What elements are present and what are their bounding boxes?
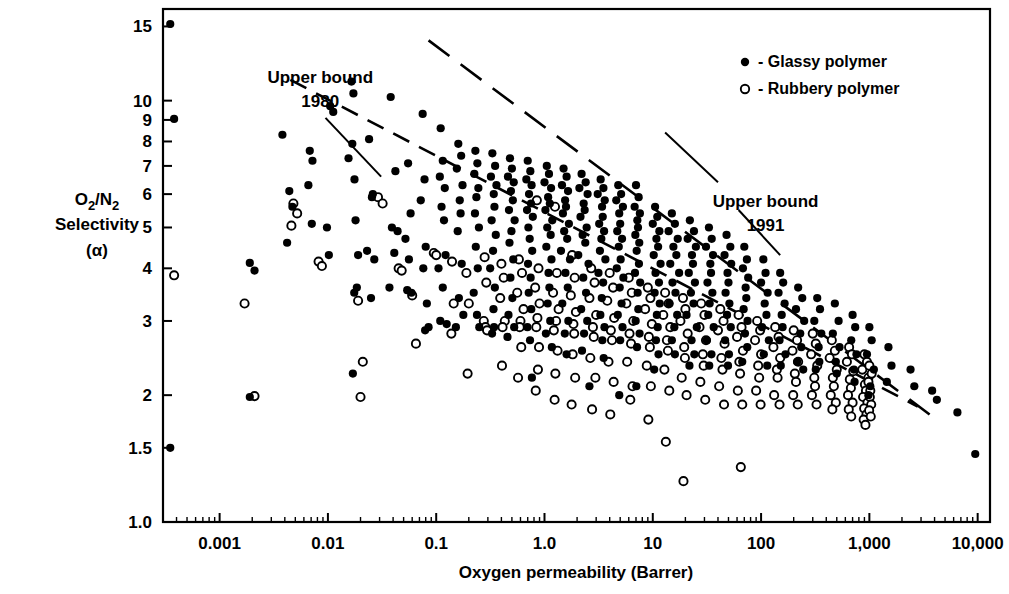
data-point-rubbery bbox=[287, 222, 295, 230]
data-point-glassy bbox=[654, 350, 662, 358]
data-point-rubbery bbox=[589, 323, 597, 331]
data-point-glassy bbox=[779, 278, 787, 286]
data-point-glassy bbox=[441, 184, 449, 192]
upper-bound-1980-label: 1980 bbox=[301, 92, 339, 111]
data-point-glassy bbox=[816, 305, 824, 313]
data-point-glassy bbox=[743, 317, 751, 325]
data-point-glassy bbox=[742, 294, 750, 302]
data-point-glassy bbox=[743, 255, 751, 263]
upper-bound-1980-label: Upper bound bbox=[267, 68, 373, 87]
data-point-glassy bbox=[391, 167, 399, 175]
data-point-glassy bbox=[548, 216, 556, 224]
data-point-rubbery bbox=[754, 362, 762, 370]
data-point-rubbery bbox=[847, 412, 855, 420]
data-point-glassy bbox=[777, 362, 785, 370]
data-point-rubbery bbox=[514, 374, 522, 382]
data-point-glassy bbox=[505, 206, 513, 214]
data-point-glassy bbox=[613, 264, 621, 272]
data-point-glassy bbox=[487, 173, 495, 181]
data-point-glassy bbox=[933, 396, 941, 404]
data-point-rubbery bbox=[828, 405, 836, 413]
data-point-glassy bbox=[566, 255, 574, 263]
data-point-glassy bbox=[864, 391, 872, 399]
data-point-glassy bbox=[585, 382, 593, 390]
data-point-glassy bbox=[650, 365, 658, 373]
data-point-glassy bbox=[651, 203, 659, 211]
data-point-glassy bbox=[458, 260, 466, 268]
data-point-glassy bbox=[652, 336, 660, 344]
data-point-glassy bbox=[458, 181, 466, 189]
data-point-glassy bbox=[510, 323, 518, 331]
data-point-rubbery bbox=[398, 267, 406, 275]
data-point-glassy bbox=[542, 329, 550, 337]
data-point-glassy bbox=[583, 223, 591, 231]
data-point-glassy bbox=[764, 289, 772, 297]
data-point-rubbery bbox=[734, 387, 742, 395]
data-point-rubbery bbox=[606, 410, 614, 418]
data-point-glassy bbox=[370, 255, 378, 263]
data-point-glassy bbox=[649, 220, 657, 228]
data-point-glassy bbox=[443, 320, 451, 328]
data-point-glassy bbox=[170, 115, 178, 123]
data-point-glassy bbox=[742, 283, 750, 291]
y-tick-label: 5 bbox=[143, 218, 152, 237]
data-point-glassy bbox=[459, 311, 467, 319]
data-point-glassy bbox=[654, 243, 662, 251]
data-point-glassy bbox=[528, 374, 536, 382]
data-point-glassy bbox=[523, 206, 531, 214]
data-point-glassy bbox=[471, 147, 479, 155]
data-point-glassy bbox=[655, 278, 663, 286]
data-point-rubbery bbox=[623, 358, 631, 366]
data-point-rubbery bbox=[608, 336, 616, 344]
data-point-glassy bbox=[595, 220, 603, 228]
data-point-glassy bbox=[470, 289, 478, 297]
data-point-glassy bbox=[490, 190, 498, 198]
data-point-glassy bbox=[781, 350, 789, 358]
data-point-glassy bbox=[558, 299, 566, 307]
data-point-glassy bbox=[765, 336, 773, 344]
data-point-glassy bbox=[692, 243, 700, 251]
data-point-glassy bbox=[561, 269, 569, 277]
data-point-rubbery bbox=[665, 387, 673, 395]
data-point-glassy bbox=[577, 305, 585, 313]
data-point-glassy bbox=[870, 365, 878, 373]
data-point-glassy bbox=[793, 358, 801, 366]
data-point-rubbery bbox=[645, 333, 653, 341]
data-point-glassy bbox=[703, 278, 711, 286]
data-point-glassy bbox=[618, 235, 626, 243]
data-point-glassy bbox=[761, 299, 769, 307]
data-point-glassy bbox=[529, 213, 537, 221]
data-point-rubbery bbox=[570, 329, 578, 337]
data-point-glassy bbox=[574, 251, 582, 259]
data-point-glassy bbox=[689, 260, 697, 268]
data-point-rubbery bbox=[843, 358, 851, 366]
data-point-glassy bbox=[456, 196, 464, 204]
data-point-glassy bbox=[727, 260, 735, 268]
data-point-glassy bbox=[368, 193, 376, 201]
data-point-glassy bbox=[650, 251, 658, 259]
data-point-glassy bbox=[688, 251, 696, 259]
data-point-glassy bbox=[564, 317, 572, 325]
data-point-glassy bbox=[865, 323, 873, 331]
data-point-rubbery bbox=[738, 400, 746, 408]
data-point-glassy bbox=[721, 289, 729, 297]
data-point-glassy bbox=[599, 278, 607, 286]
legend-label-rubbery-polymer: - Rubbery polymer bbox=[758, 80, 899, 97]
data-point-glassy bbox=[685, 269, 693, 277]
data-point-glassy bbox=[472, 193, 480, 201]
data-point-rubbery bbox=[792, 378, 800, 386]
data-point-glassy bbox=[504, 311, 512, 319]
data-point-glassy bbox=[422, 243, 430, 251]
data-point-glassy bbox=[636, 278, 644, 286]
data-point-glassy bbox=[781, 299, 789, 307]
data-point-glassy bbox=[600, 354, 608, 362]
data-point-rubbery bbox=[531, 283, 539, 291]
data-point-glassy bbox=[544, 269, 552, 277]
data-point-glassy bbox=[350, 175, 358, 183]
data-point-glassy bbox=[812, 365, 820, 373]
data-point-glassy bbox=[278, 131, 286, 139]
data-point-rubbery bbox=[590, 333, 598, 341]
data-point-glassy bbox=[724, 362, 732, 370]
data-point-glassy bbox=[436, 173, 444, 181]
data-point-glassy bbox=[545, 170, 553, 178]
